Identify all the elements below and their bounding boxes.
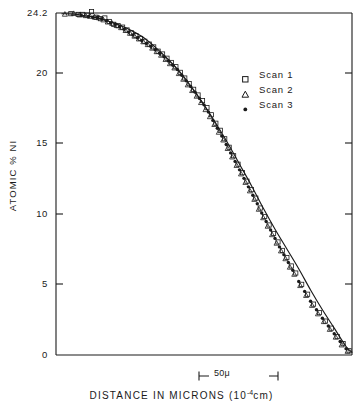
data-point	[145, 42, 148, 45]
data-point	[180, 73, 183, 76]
scale-bar	[199, 369, 278, 383]
data-point	[265, 224, 270, 229]
data-point	[167, 59, 170, 62]
y-tick-label-5: 5	[8, 278, 48, 289]
data-point	[109, 21, 112, 24]
data-point	[282, 253, 285, 256]
data-point	[118, 25, 121, 28]
figure-root: 24.2 20 15 10 5 0 ATOMIC % NI 50μ DISTAN…	[0, 0, 363, 412]
data-point	[251, 194, 254, 197]
data-point	[283, 256, 288, 261]
data-layer	[62, 9, 352, 353]
data-point	[292, 272, 297, 277]
data-point	[238, 168, 241, 171]
data-point	[233, 160, 236, 163]
plot-canvas	[0, 0, 363, 412]
data-point	[252, 197, 257, 202]
series-scan-2	[62, 11, 350, 353]
data-point	[338, 340, 341, 343]
data-point	[207, 110, 210, 113]
data-point	[122, 28, 125, 31]
y-axis-title: ATOMIC % NI	[7, 131, 18, 221]
data-point	[136, 36, 139, 39]
data-point	[315, 308, 318, 311]
data-point	[100, 17, 103, 20]
data-point	[243, 180, 248, 185]
data-point	[242, 177, 245, 180]
data-point	[162, 55, 165, 58]
legend-label-scan-2: Scan 2	[259, 84, 293, 95]
data-point	[185, 79, 188, 82]
data-point	[278, 245, 281, 248]
data-point	[309, 300, 312, 303]
data-point	[149, 45, 152, 48]
data-point	[287, 265, 292, 270]
data-point	[327, 324, 330, 327]
data-point	[304, 293, 309, 298]
y-tick-label-0: 0	[8, 349, 48, 360]
open-triangle-icon	[241, 90, 250, 99]
data-point	[303, 290, 306, 293]
x-axis-title-main: DISTANCE IN MICRONS (10	[90, 390, 247, 401]
data-point	[344, 347, 347, 350]
legend-label-scan-3: Scan 3	[259, 99, 293, 110]
data-point	[114, 23, 117, 26]
data-point	[202, 103, 205, 106]
data-point	[153, 48, 156, 51]
data-point	[198, 97, 201, 100]
data-point	[297, 280, 300, 283]
data-point	[269, 228, 272, 231]
fit-curve-path	[62, 14, 352, 352]
scale-bar-label: 50μ	[214, 368, 230, 378]
data-point	[211, 119, 214, 122]
data-point	[87, 15, 90, 18]
y-tick-label-20: 20	[8, 67, 48, 78]
data-point	[216, 126, 219, 129]
data-point	[256, 207, 261, 212]
data-point	[261, 215, 266, 220]
data-point	[105, 19, 108, 22]
data-point	[247, 188, 252, 193]
data-point	[220, 134, 223, 137]
data-point	[229, 151, 232, 154]
data-point	[234, 163, 239, 168]
data-point	[321, 317, 324, 320]
data-point	[127, 30, 130, 33]
data-point	[189, 85, 192, 88]
data-point	[264, 220, 267, 223]
axis-frame	[56, 13, 352, 355]
y-tick-label-24-2: 24.2	[8, 7, 48, 18]
data-point	[91, 16, 94, 19]
data-point	[291, 269, 294, 272]
x-axis-title: DISTANCE IN MICRONS (10-4cm)	[0, 389, 363, 401]
data-point	[238, 171, 243, 176]
data-point	[333, 332, 336, 335]
data-point	[158, 52, 161, 55]
data-point	[193, 90, 196, 93]
data-point	[274, 241, 279, 246]
data-point	[260, 211, 263, 214]
x-axis-title-tail: cm)	[253, 390, 273, 401]
series-scan-1	[69, 9, 351, 352]
series-scan-3	[79, 13, 347, 350]
data-point	[315, 311, 320, 316]
data-point	[256, 202, 259, 205]
data-point	[310, 303, 315, 308]
data-point	[298, 283, 303, 288]
data-point	[171, 64, 174, 67]
data-point	[270, 232, 275, 237]
filled-circle-icon	[241, 105, 250, 114]
data-point	[287, 261, 290, 264]
data-point	[79, 13, 82, 16]
data-point	[225, 143, 228, 146]
legend-label-scan-1: Scan 1	[259, 69, 293, 80]
data-point	[131, 33, 134, 36]
data-point	[176, 68, 179, 71]
open-square-icon	[241, 75, 250, 84]
data-point	[96, 16, 99, 19]
data-point	[273, 237, 276, 240]
data-point	[247, 185, 250, 188]
data-point	[140, 39, 143, 42]
